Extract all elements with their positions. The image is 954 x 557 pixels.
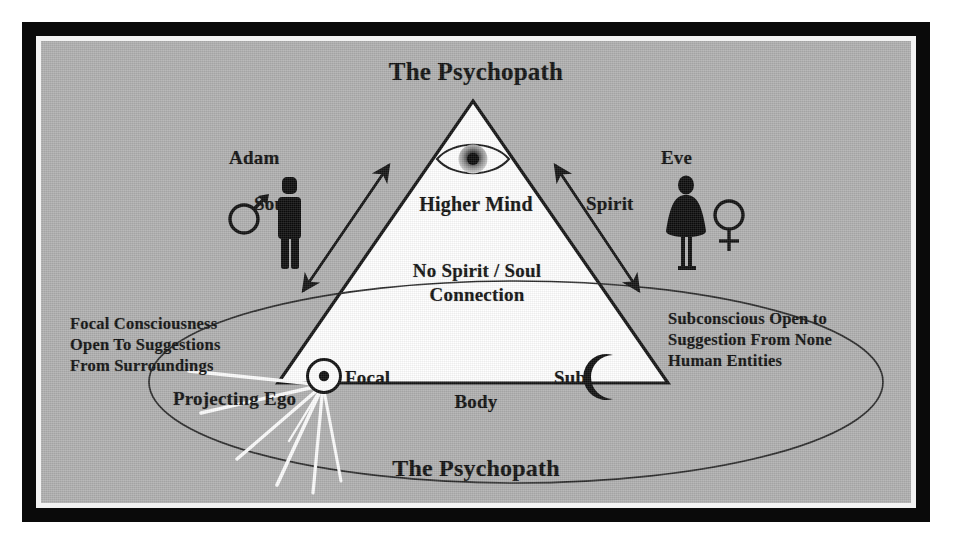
no-spirit-line-2: Connection xyxy=(338,283,616,307)
no-spirit-line-1: No Spirit / Soul xyxy=(338,259,616,283)
right-annotation-line-2: Suggestion From None xyxy=(668,329,890,350)
page-title-bottom: The Psychopath xyxy=(41,455,911,482)
female-figure-icon xyxy=(666,176,706,271)
higher-mind-label: Higher Mind xyxy=(41,193,911,216)
male-figure-icon xyxy=(278,177,301,269)
right-annotation-line-3: Human Entities xyxy=(668,350,890,371)
no-spirit-soul-connection-label: No Spirit / Soul Connection xyxy=(338,259,616,307)
left-annotation-line-2: Open To Suggestions xyxy=(70,334,280,355)
body-label: Body xyxy=(41,391,911,413)
male-gender-symbol-icon xyxy=(230,194,269,233)
diagram-canvas: The Psychopath Adam Eve Soul Spirit High… xyxy=(0,0,954,557)
sun-circled-dot-icon xyxy=(308,360,341,393)
right-annotation-line-1: Subconscious Open to xyxy=(668,308,890,329)
eve-label: Eve xyxy=(661,147,692,169)
female-gender-symbol-icon xyxy=(715,201,743,251)
eve-figure xyxy=(653,169,751,277)
adam-figure xyxy=(227,169,319,277)
left-annotation-line-1: Focal Consciousness xyxy=(70,313,280,334)
right-annotation-text: Subconscious Open to Suggestion From Non… xyxy=(668,308,890,371)
diagram-artboard: The Psychopath Adam Eve Soul Spirit High… xyxy=(41,41,911,503)
left-annotation-text: Focal Consciousness Open To Suggestions … xyxy=(70,313,280,376)
sub-label: Sub xyxy=(554,367,586,389)
projecting-ego-label: Projecting Ego xyxy=(173,388,296,410)
focal-label: Focal xyxy=(345,367,390,389)
page-title-top: The Psychopath xyxy=(41,58,911,86)
adam-label: Adam xyxy=(229,147,279,169)
left-annotation-line-3: From Surroundings xyxy=(70,355,280,376)
